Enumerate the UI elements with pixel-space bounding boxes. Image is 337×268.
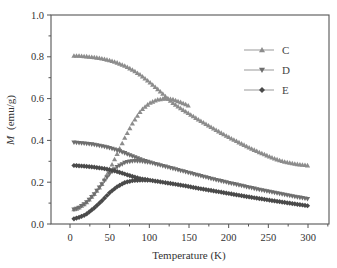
legend-label: D (282, 64, 290, 76)
series-c-fc (71, 53, 310, 167)
x-tick-label: 200 (221, 232, 237, 243)
x-tick-label: 250 (260, 232, 276, 243)
legend-item-d: D (244, 64, 290, 76)
legend: CDE (244, 44, 290, 96)
y-tick-label: 0.4 (31, 135, 45, 146)
y-tick-label: 0.2 (31, 177, 44, 188)
y-axis-title: M (emu/g) (4, 95, 17, 146)
legend-item-c: C (244, 44, 289, 56)
svg-text:M (emu/g): M (emu/g) (4, 95, 17, 146)
series-e-fc (71, 163, 310, 208)
chart: 0501001502002503000.00.20.40.60.81.0 CDE… (0, 0, 337, 268)
x-tick-label: 300 (300, 232, 316, 243)
y-axis-symbol: M (4, 135, 16, 146)
series-e-zfc (71, 178, 150, 222)
legend-item-e: E (244, 84, 289, 96)
legend-label: C (282, 44, 289, 56)
x-tick-label: 100 (141, 232, 157, 243)
legend-label: E (282, 84, 289, 96)
y-tick-label: 0.6 (31, 93, 44, 104)
y-tick-label: 1.0 (31, 10, 44, 21)
data-series (71, 53, 310, 221)
x-axis-title: Temperature (K) (152, 249, 226, 262)
y-axis-units: (emu/g) (4, 95, 17, 130)
x-tick-label: 150 (181, 232, 197, 243)
y-tick-label: 0.8 (31, 51, 44, 62)
x-tick-label: 0 (67, 232, 72, 243)
y-tick-label: 0.0 (31, 219, 44, 230)
x-tick-label: 50 (104, 232, 115, 243)
